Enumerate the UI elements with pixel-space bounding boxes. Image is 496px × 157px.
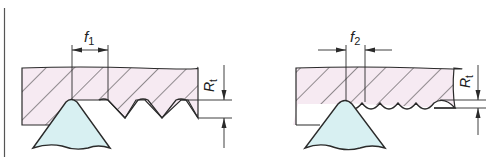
right-panel: f2 Rt [293, 28, 486, 150]
feed-label-left: f1 [84, 28, 94, 47]
workpiece-right [293, 67, 462, 125]
workpiece-left [22, 67, 198, 125]
feed-label-right: f2 [350, 28, 360, 47]
diagram-canvas: f1 Rt f2 Rt [0, 0, 496, 157]
left-panel: f1 Rt [22, 28, 232, 149]
roughness-label-left: Rt [201, 79, 219, 92]
roughness-label-right: Rt [457, 75, 475, 88]
